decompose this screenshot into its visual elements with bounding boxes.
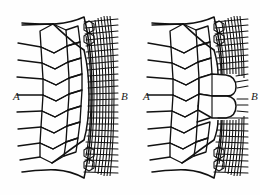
figure-root: A B	[0, 0, 260, 195]
tissue-diagram-svg: A B	[0, 0, 260, 195]
panel-left-label-a: A	[12, 90, 20, 102]
panel-left-label-b: B	[121, 90, 128, 102]
panel-right-label-a: A	[142, 90, 150, 102]
panel-right-label-b: B	[251, 90, 258, 102]
